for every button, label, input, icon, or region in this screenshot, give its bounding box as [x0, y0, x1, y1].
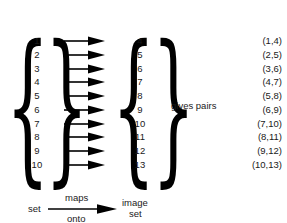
mapping-arrow: [63, 160, 107, 170]
mapping-arrow: [63, 146, 107, 156]
right-arrow-icon: [63, 105, 107, 115]
domain-element: 7: [34, 119, 39, 129]
right-arrow-icon: [63, 119, 107, 129]
set-mapping-diagram: { } 1 2 3 4 5 6 7 8 9 10: [0, 0, 287, 223]
mapping-arrow-list: [63, 36, 107, 170]
image-element: 10: [135, 119, 146, 129]
image-element: 11: [135, 132, 145, 142]
right-arrow-icon: [63, 91, 107, 101]
legend: set maps onto image set: [0, 192, 287, 223]
mapping-arrow: [63, 119, 107, 129]
ordered-pair: (2,5): [262, 50, 282, 60]
ordered-pair: (3,6): [262, 64, 282, 74]
image-element: 6: [137, 64, 142, 74]
right-arrow-icon: [63, 132, 107, 142]
right-arrow-icon: [63, 50, 107, 60]
ordered-pair: (9,12): [257, 146, 282, 156]
image-element: 8: [137, 91, 142, 101]
ordered-pair: (5,8): [262, 91, 282, 101]
legend-target-label-line1: image: [122, 197, 148, 208]
domain-set-elements: 1 2 3 4 5 6 7 8 9 10: [24, 36, 50, 170]
domain-element: 10: [32, 160, 43, 170]
mapping-arrow: [63, 36, 107, 46]
domain-element: 2: [34, 50, 39, 60]
image-element: 12: [135, 146, 146, 156]
ordered-pair: (10,13): [252, 160, 282, 170]
ordered-pair: (7,10): [257, 119, 282, 129]
mapping-arrow: [63, 50, 107, 60]
domain-element: 8: [34, 132, 39, 142]
image-element: 5: [137, 50, 142, 60]
right-arrow-icon: [63, 36, 107, 46]
right-arrow-icon: [63, 77, 107, 87]
image-element: 7: [137, 77, 142, 87]
domain-element: 5: [34, 91, 39, 101]
gives-pairs-label: gives pairs: [171, 100, 216, 111]
right-arrow-icon: [63, 64, 107, 74]
ordered-pair: (8,11): [258, 132, 282, 142]
ordered-pair: (1,4): [262, 36, 282, 46]
legend-source-label: set: [28, 203, 41, 214]
mapping-arrow: [63, 132, 107, 142]
domain-element: 4: [34, 77, 39, 87]
mapping-arrow: [63, 105, 107, 115]
right-arrow-icon: [63, 160, 107, 170]
ordered-pair: (4,7): [262, 77, 282, 87]
image-element: 9: [137, 105, 142, 115]
domain-element: 3: [34, 64, 39, 74]
image-set-elements: 4 5 6 7 8 9 10 11 12 13: [126, 36, 154, 170]
image-element: 13: [135, 160, 146, 170]
mapping-arrow: [63, 91, 107, 101]
right-arrow-icon: [47, 203, 119, 215]
mapping-arrow: [63, 77, 107, 87]
domain-element: 6: [34, 105, 39, 115]
ordered-pair: (6,9): [262, 105, 282, 115]
domain-element: 1: [34, 36, 39, 46]
ordered-pairs-list: (1,4) (2,5) (3,6) (4,7) (5,8) (6,9) (7,1…: [227, 36, 282, 170]
domain-element: 9: [34, 146, 39, 156]
right-arrow-icon: [63, 146, 107, 156]
image-element: 4: [137, 36, 142, 46]
legend-relation-above-label: maps: [65, 192, 88, 203]
mapping-arrow: [63, 64, 107, 74]
legend-target-label-line2: set: [129, 208, 142, 219]
